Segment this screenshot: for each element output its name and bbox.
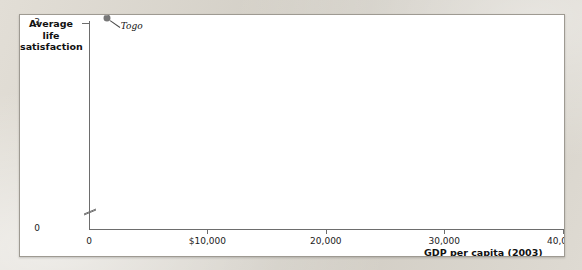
point-label-benin: Benin <box>122 14 148 17</box>
x-tick-label-40000: 40,000 <box>528 236 565 246</box>
x-tick-label-10000: $10,000 <box>172 236 242 246</box>
chart-panel: Average life satisfaction 0345678 0$10,0… <box>19 14 565 257</box>
point-label-togo: Togo <box>121 21 143 32</box>
figure-frame: Average life satisfaction 0345678 0$10,0… <box>0 0 582 270</box>
y-tick-3 <box>82 23 89 24</box>
y-axis-line <box>89 21 90 221</box>
x-tick-10000 <box>207 229 208 234</box>
x-tick-20000 <box>326 229 327 234</box>
y-tick-label-3: 3 <box>19 17 40 27</box>
y-tick-label-0: 0 <box>19 223 40 233</box>
x-tick-40000 <box>563 229 564 234</box>
y-axis-title-line-2: life <box>20 30 82 42</box>
axis-break-icon <box>83 205 97 219</box>
x-tick-30000 <box>444 229 445 234</box>
x-tick-label-20000: 20,000 <box>291 236 361 246</box>
y-axis-title-line-3: satisfaction <box>20 41 82 53</box>
x-axis-title: GDP per capita (2003) <box>424 247 543 257</box>
x-tick-label-0: 0 <box>54 236 124 246</box>
x-tick-label-30000: 30,000 <box>409 236 479 246</box>
leader-line <box>110 21 120 29</box>
